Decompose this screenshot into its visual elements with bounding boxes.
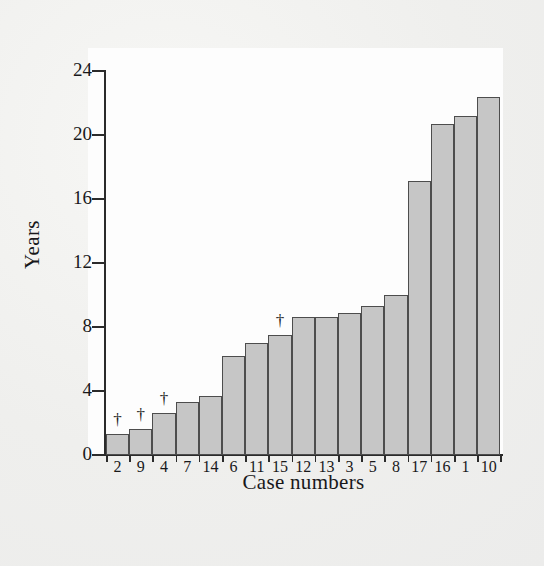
bar [454,116,477,455]
y-axis-tick [92,454,104,456]
bar [268,335,291,455]
bar [129,429,152,455]
y-axis-tick-label: 4 [52,380,92,399]
bar [477,97,500,455]
y-axis-tick [92,390,104,392]
y-axis-line [104,70,106,456]
bar-chart-figure: 04812162024 Years 2947146111512133581716… [0,0,544,566]
bar [361,306,384,455]
bar [431,124,454,455]
bar [338,313,361,455]
y-axis-tick-label-wrap: 24 [40,70,92,72]
y-axis-tick-label: 12 [52,252,92,271]
y-axis-tick [92,134,104,136]
y-axis-tick-label-wrap: 4 [40,390,92,392]
bar [199,396,222,455]
y-axis-tick-label: 24 [52,60,92,79]
y-axis-tick-label-wrap: 16 [40,198,92,200]
y-axis-tick-label: 0 [52,444,92,463]
dagger-annotation: † [264,312,295,329]
y-axis-tick-label-wrap: 20 [40,134,92,136]
bar [384,295,407,455]
y-axis-title: Years [20,200,45,290]
y-axis-tick [92,326,104,328]
y-axis-tick-label: 8 [52,316,92,335]
bar [176,402,199,455]
y-axis-tick-label: 16 [52,188,92,207]
dagger-annotation: † [125,406,156,423]
bar [315,317,338,455]
dagger-annotation: † [148,390,179,407]
y-axis-tick [92,198,104,200]
y-axis-tick [92,70,104,72]
x-axis-title: Case numbers [104,470,503,495]
y-axis-tick-label-wrap: 0 [40,454,92,456]
bar [245,343,268,455]
y-axis-tick-label: 20 [52,124,92,143]
bar [408,181,431,455]
bar [222,356,245,455]
bar [292,317,315,455]
bar [106,434,129,455]
y-axis-tick-label-wrap: 8 [40,326,92,328]
y-axis-tick-label-wrap: 12 [40,262,92,264]
y-axis-tick [92,262,104,264]
